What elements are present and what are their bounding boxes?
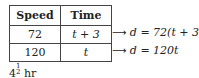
equation-text: d = 72(t + 3) [130, 26, 199, 39]
arrow-right-icon: ⟶ [112, 45, 126, 56]
equation-2: ⟶ d = 120t [112, 44, 179, 57]
rate-table: Speed Time 72 t + 3 120 t [9, 5, 112, 62]
header-time: Time [61, 6, 112, 26]
cell-time: t + 3 [61, 26, 112, 44]
fraction-denominator: 2 [16, 68, 20, 76]
fraction: 12 [16, 63, 20, 75]
time-answer: 412 hr [9, 63, 36, 78]
header-speed: Speed [10, 6, 61, 26]
cell-speed: 120 [10, 44, 61, 62]
unit: hr [24, 67, 36, 78]
table-header-row: Speed Time [10, 6, 112, 26]
arrow-right-icon: ⟶ [112, 27, 126, 38]
cell-time: t [61, 44, 112, 62]
equation-1: ⟶ d = 72(t + 3) [112, 26, 199, 39]
table-row: 120 t [10, 44, 112, 62]
equation-text: d = 120t [130, 44, 179, 57]
cell-speed: 72 [10, 26, 61, 44]
mixed-whole: 4 [9, 67, 16, 78]
table-row: 72 t + 3 [10, 26, 112, 44]
